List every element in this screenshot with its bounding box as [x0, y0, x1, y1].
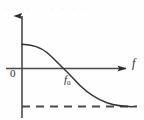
figure-container: · · · · · · · · 0 f f0 [0, 0, 144, 120]
origin-label: 0 [10, 68, 16, 79]
data-series-group [22, 44, 134, 106]
cutoff-subscript: 0 [67, 79, 71, 87]
x-axis-label: f [132, 57, 135, 69]
plot-canvas [0, 0, 144, 120]
phase-response-curve [22, 44, 134, 106]
cutoff-frequency-label: f0 [64, 74, 71, 85]
